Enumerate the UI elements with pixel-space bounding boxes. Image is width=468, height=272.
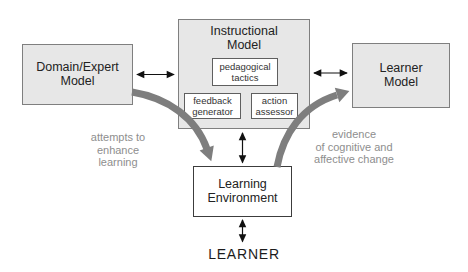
right-annotation-line2: of cognitive and — [284, 141, 424, 154]
learner-model-label-line1: Learner — [379, 62, 422, 76]
left-annotation: attempts to enhance learning — [48, 131, 188, 169]
feedback-generator-label-line2: generator — [192, 106, 233, 117]
left-annotation-line1: attempts to — [48, 131, 188, 144]
right-annotation: evidence of cognitive and affective chan… — [284, 128, 424, 166]
left-annotation-line3: learning — [48, 156, 188, 169]
its-architecture-diagram: Domain/Expert Model Instructional Model … — [0, 0, 468, 272]
pedagogical-tactics-label-line1: pedagogical — [219, 61, 270, 72]
instructional-model-label-line1: Instructional — [210, 25, 277, 39]
domain-to-environment-arrowhead-icon — [200, 146, 214, 162]
learner-model-label-line2: Model — [384, 76, 418, 90]
action-assessor-label-line1: action — [262, 95, 287, 106]
learner-model-box: Learner Model — [352, 43, 450, 108]
instructional-model-label-line2: Model — [227, 39, 261, 53]
feedback-generator-label-line1: feedback — [193, 95, 232, 106]
action-assessor-label-line2: assessor — [255, 106, 293, 117]
domain-expert-model-label-line1: Domain/Expert — [36, 61, 119, 75]
domain-expert-model-box: Domain/Expert Model — [22, 44, 133, 105]
right-annotation-line1: evidence — [284, 128, 424, 141]
pedagogical-tactics-label-line2: tactics — [232, 72, 259, 83]
feedback-generator-box: feedback generator — [184, 93, 241, 119]
action-assessor-box: action assessor — [251, 93, 298, 119]
learning-environment-label-line2: Environment — [207, 192, 277, 206]
right-annotation-line3: affective change — [284, 153, 424, 166]
environment-to-learner-arrowhead-icon — [335, 88, 350, 102]
learning-environment-label-line1: Learning — [218, 178, 267, 192]
learner-label: LEARNER — [164, 246, 324, 262]
pedagogical-tactics-box: pedagogical tactics — [212, 58, 278, 86]
domain-expert-model-label-line2: Model — [60, 75, 94, 89]
learning-environment-box: Learning Environment — [193, 166, 292, 217]
left-annotation-line2: enhance — [48, 144, 188, 157]
